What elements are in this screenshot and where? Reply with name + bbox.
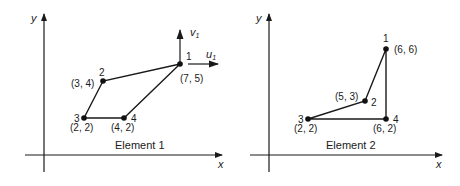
node-3 bbox=[81, 115, 87, 121]
u1-label: u1 bbox=[206, 48, 216, 61]
node-2-coord: (5, 3) bbox=[335, 91, 358, 102]
y-axis-label: y bbox=[30, 12, 38, 24]
node-2 bbox=[362, 98, 368, 104]
node-1-id: 1 bbox=[186, 51, 192, 62]
node-3 bbox=[305, 116, 311, 122]
node-1 bbox=[177, 61, 183, 67]
node-1-coord: (6, 6) bbox=[394, 44, 417, 55]
node-4-coord: (6, 2) bbox=[373, 123, 396, 134]
node-2-coord: (3, 4) bbox=[71, 78, 94, 89]
node-3-coord: (2, 2) bbox=[294, 123, 317, 134]
node-2-id: 2 bbox=[99, 67, 105, 78]
node-3-coord: (2, 2) bbox=[70, 122, 93, 133]
y-axis-label: y bbox=[255, 12, 263, 24]
x-axis-label: x bbox=[435, 158, 442, 170]
node-4-coord: (4, 2) bbox=[111, 122, 134, 133]
node-1 bbox=[383, 46, 389, 52]
panel-element-1: y x v1 u1 1 (7, 5) 2 (3, 4) 3 (2, 2) 4 (… bbox=[25, 12, 224, 172]
node-1-id: 1 bbox=[383, 33, 389, 44]
panel-element-2: y x 1 (6, 6) 2 (5, 3) 3 (2, 2) 4 (6, 2) … bbox=[250, 12, 442, 172]
element-2-title: Element 2 bbox=[326, 139, 376, 151]
node-1-coord: (7, 5) bbox=[180, 73, 203, 84]
node-4 bbox=[121, 115, 127, 121]
element-diagram: y x v1 u1 1 (7, 5) 2 (3, 4) 3 (2, 2) 4 (… bbox=[0, 0, 460, 186]
node-2-id: 2 bbox=[371, 97, 377, 108]
v1-label: v1 bbox=[190, 26, 200, 39]
element-1-title: Element 1 bbox=[115, 139, 165, 151]
node-4 bbox=[383, 116, 389, 122]
x-axis-label: x bbox=[217, 158, 224, 170]
quadrilateral-element-2 bbox=[308, 49, 386, 119]
node-2 bbox=[100, 78, 106, 84]
